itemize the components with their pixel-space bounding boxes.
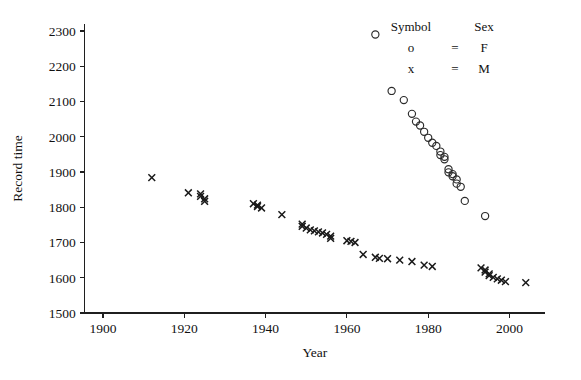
data-point-female — [400, 96, 407, 103]
legend-symbol-F: o — [408, 40, 415, 55]
x-tick-label: 1920 — [171, 321, 198, 336]
data-point-male — [148, 174, 155, 181]
y-tick-label: 2200 — [49, 59, 76, 74]
y-tick-label: 2000 — [49, 130, 76, 145]
chart-figure: 1500160017001800190020002100220023001900… — [0, 0, 581, 380]
data-point-female — [408, 110, 415, 117]
legend-equals: = — [451, 40, 458, 55]
y-tick-label: 2100 — [49, 94, 76, 109]
data-point-female — [372, 31, 379, 38]
y-tick-label: 1500 — [49, 306, 76, 321]
data-point-male — [384, 255, 391, 262]
legend-label-F: F — [480, 40, 487, 55]
legend-header-sex: Sex — [474, 19, 494, 34]
data-point-male — [421, 262, 428, 269]
data-point-female — [388, 87, 395, 94]
legend-symbol-M: x — [408, 61, 415, 76]
y-tick-label: 1600 — [49, 271, 76, 286]
data-point-male — [429, 263, 436, 270]
y-tick-label: 1800 — [49, 200, 76, 215]
x-tick-label: 2000 — [496, 321, 523, 336]
scatter-plot: 1500160017001800190020002100220023001900… — [0, 0, 581, 380]
legend-header-symbol: Symbol — [391, 19, 432, 34]
data-point-female — [461, 197, 468, 204]
x-tick-label: 1900 — [90, 321, 117, 336]
x-tick-label: 1960 — [333, 321, 360, 336]
data-point-male — [409, 258, 416, 265]
y-tick-label: 1700 — [49, 235, 76, 250]
series-F — [372, 31, 489, 220]
x-tick-label: 1940 — [252, 321, 279, 336]
y-tick-label: 1900 — [49, 165, 76, 180]
data-point-female — [425, 134, 432, 141]
x-axis-title: Year — [302, 345, 327, 360]
legend: SymbolSexo=Fx=M — [391, 19, 494, 76]
data-point-female — [482, 212, 489, 219]
y-tick-label: 2300 — [49, 24, 76, 39]
data-point-male — [522, 279, 529, 286]
legend-label-M: M — [478, 61, 490, 76]
y-axis-title: Record time — [10, 135, 25, 201]
data-point-male — [278, 211, 285, 218]
series-M — [148, 174, 529, 286]
legend-equals: = — [451, 61, 458, 76]
data-point-male — [396, 257, 403, 264]
data-point-male — [360, 251, 367, 258]
data-point-male — [185, 189, 192, 196]
x-tick-label: 1980 — [415, 321, 442, 336]
